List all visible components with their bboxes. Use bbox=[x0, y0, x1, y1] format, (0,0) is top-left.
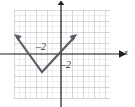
tick-label-y-negative-2: –2 bbox=[61, 60, 71, 70]
tick-label-x-negative-2: –2 bbox=[36, 42, 46, 52]
graph-figure: x –2 –2 bbox=[0, 0, 135, 107]
x-axis-label: x bbox=[124, 48, 128, 57]
coordinate-plane-svg bbox=[0, 0, 135, 107]
x-axis bbox=[0, 50, 127, 58]
